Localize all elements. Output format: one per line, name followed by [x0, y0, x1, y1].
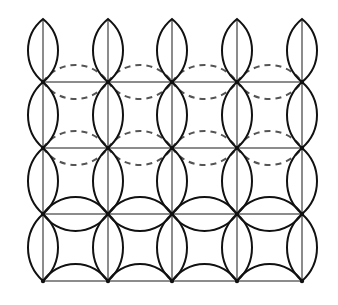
horizontal-lens-lower-arc [172, 148, 237, 165]
lattice-node [300, 279, 304, 283]
horizontal-lens-lower-arc [237, 214, 302, 231]
horizontal-lens-upper-arc [108, 264, 172, 281]
lattice-node [235, 80, 239, 84]
horizontal-lens-upper-arc [43, 197, 108, 214]
horizontal-lens-lower-arc [43, 82, 108, 99]
lattice-node [300, 80, 304, 84]
lattice-node [170, 212, 174, 216]
horizontal-lens-upper-arc [237, 197, 302, 214]
lattice-node [106, 279, 110, 283]
lattice-node [300, 212, 304, 216]
horizontal-lens-upper-arc [172, 131, 237, 148]
lattice-node [41, 146, 45, 150]
lattice-node [41, 80, 45, 84]
horizontal-lens-lower-arc [237, 82, 302, 99]
lattice-node [41, 279, 45, 283]
horizontal-lens-lower-arc [43, 214, 108, 231]
horizontal-lens-upper-arc [108, 65, 172, 82]
horizontal-lens-upper-arc [172, 197, 237, 214]
lattice-node [170, 279, 174, 283]
horizontal-lens-upper-arc [237, 65, 302, 82]
horizontal-lens-upper-arc [237, 131, 302, 148]
lattice-node [170, 80, 174, 84]
horizontal-lens-upper-arc [172, 65, 237, 82]
lattice-node [235, 212, 239, 216]
lattice-node [106, 146, 110, 150]
horizontal-lens-lower-arc [108, 214, 172, 231]
horizontal-lens-upper-arc [43, 264, 108, 281]
lattice-node [235, 279, 239, 283]
horizontal-lens-lower-arc [108, 148, 172, 165]
lattice-node [106, 212, 110, 216]
horizontal-lens-upper-arc [108, 131, 172, 148]
lattice-node [235, 146, 239, 150]
horizontal-lens-lower-arc [172, 82, 237, 99]
horizontal-lens-upper-arc [43, 65, 108, 82]
horizontal-lens-lower-arc [172, 214, 237, 231]
horizontal-lens-upper-arc [237, 264, 302, 281]
lattice-node [106, 80, 110, 84]
lattice-node [170, 146, 174, 150]
horizontal-lens-upper-arc [43, 131, 108, 148]
horizontal-lens-upper-arc [108, 197, 172, 214]
horizontal-lens-lower-arc [43, 148, 108, 165]
lattice-node [41, 212, 45, 216]
horizontal-lens-lower-arc [108, 82, 172, 99]
lens-lattice-diagram [0, 0, 338, 305]
horizontal-lens-lower-arc [237, 148, 302, 165]
lattice-node [300, 146, 304, 150]
horizontal-lens-upper-arc [172, 264, 237, 281]
